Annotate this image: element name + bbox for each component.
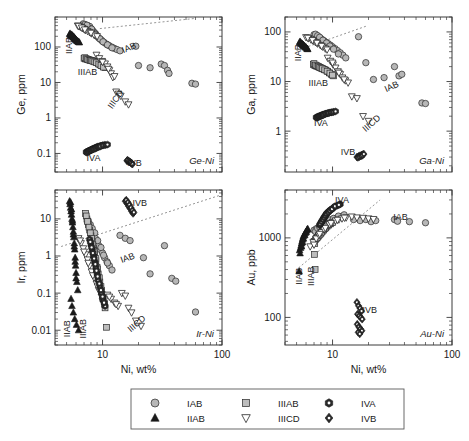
marker-ivb-center-dot xyxy=(361,318,363,320)
y-tick-label-ga-ni: 1 xyxy=(275,126,281,137)
marker-iab xyxy=(104,260,110,266)
marker-iiiab xyxy=(330,72,336,78)
y-tick-label-au-ni: 1000 xyxy=(259,232,282,243)
marker-iab xyxy=(192,309,198,315)
legend-label-iiab: IIAB xyxy=(187,413,205,424)
marker-iva-center-dot xyxy=(106,143,108,145)
marker-iiab xyxy=(70,309,77,315)
marker-ivb-center-dot xyxy=(133,211,135,213)
marker-iiicd xyxy=(128,310,135,316)
group-label-ge-ni-iiiab: IIIAB xyxy=(78,67,98,77)
group-label-ga-ni-iab: IAB xyxy=(383,79,400,94)
group-label-au-ni-iiab: IIAB xyxy=(294,268,304,285)
marker-ivb-center-dot xyxy=(363,153,365,155)
group-label-ga-ni-iiiab: IIIAB xyxy=(309,78,329,88)
panel-ir-ni: 1010.10.01IIABIIIABIABIIICDIVBIr-NiIr, p… xyxy=(15,190,222,345)
group-label-ge-ni-ivb: IVB xyxy=(127,158,142,168)
panel-au-ni: 1000100IIABIIIABIVAIABIVBAu-NiAu, ppb xyxy=(245,190,452,345)
marker-iab xyxy=(173,278,179,284)
y-tick-label-ir-ni: 0.1 xyxy=(37,288,51,299)
y-tick-label-ge-ni: 100 xyxy=(34,41,51,52)
marker-iab xyxy=(343,55,349,61)
y-tick-label-au-ni: 100 xyxy=(264,312,281,323)
marker-iab xyxy=(147,65,153,71)
y-tick-label-ga-ni: 10 xyxy=(270,76,282,87)
group-label-ge-ni-iiab: IIAB xyxy=(64,37,74,54)
y-tick-label-ir-ni: 1 xyxy=(45,250,51,261)
group-label-ir-ni-iiiab: IIIAB xyxy=(78,319,88,339)
series-ga-ni-ivb xyxy=(354,150,367,161)
y-axis-title-ga-ni: Ga, ppm xyxy=(245,74,257,115)
y-tick-label-ir-ni: 10 xyxy=(40,213,52,224)
x-tick-label-au-ni: 10 xyxy=(327,349,339,360)
marker-iab xyxy=(422,100,428,106)
y-axis-title-ge-ni: Ge, ppm xyxy=(15,74,27,115)
data-layer-ir-ni xyxy=(61,195,222,333)
legend-label-iab: IAB xyxy=(187,398,202,409)
group-label-au-ni-iiiab: IIIAB xyxy=(306,266,316,286)
marker-iiab xyxy=(74,287,81,293)
marker-iva-center-dot xyxy=(334,110,336,112)
group-label-ir-ni-ivb: IVB xyxy=(133,198,148,208)
marker-iva-center-dot xyxy=(89,241,91,243)
marker-iva-center-dot xyxy=(103,302,105,304)
group-label-au-ni-ivb: IVB xyxy=(363,305,378,315)
marker-iab xyxy=(109,45,115,51)
marker-iab xyxy=(330,46,336,52)
marker-iiiab xyxy=(312,251,318,257)
marker-iiiab xyxy=(242,399,249,406)
marker-iab xyxy=(363,59,369,65)
group-label-ir-ni-iab: IAB xyxy=(119,251,136,265)
panel-ga-ni: 100101IIABIIIABIABIIICDIVAIVBGa-NiGa, pp… xyxy=(245,17,452,172)
group-label-ga-ni-iva: IVA xyxy=(314,118,328,128)
group-label-ge-ni-iva: IVA xyxy=(87,153,101,163)
y-axis-title-au-ni: Au, ppb xyxy=(245,249,257,285)
trendline-au-ni xyxy=(299,200,380,268)
figure-canvas: 1001010.1IIABIIIABIABIIICDIVAIVBGe-NiGe,… xyxy=(0,0,469,441)
x-axis-title-au-ni: Ni, wt% xyxy=(351,363,387,375)
marker-iiiab xyxy=(87,230,93,236)
x-tick-label-ir-ni: 100 xyxy=(214,349,231,360)
marker-iiicd xyxy=(354,96,361,102)
marker-iiicd xyxy=(125,102,132,108)
group-label-au-ni-iab: IAB xyxy=(393,212,408,222)
marker-iab xyxy=(422,220,428,226)
group-label-au-ni-iva: IVA xyxy=(335,195,349,205)
marker-iab xyxy=(98,244,104,250)
marker-iab xyxy=(140,254,146,260)
x-tick-label-ir-ni: 10 xyxy=(97,349,109,360)
marker-iab xyxy=(109,267,115,273)
y-tick-label-ge-ni: 0.1 xyxy=(37,148,51,159)
legend-label-iiicd: IIICD xyxy=(278,413,300,424)
marker-ivb-center-dot xyxy=(328,417,331,420)
marker-iab xyxy=(151,399,159,407)
panel-ge-ni: 1001010.1IIABIIIABIABIIICDIVAIVBGe-NiGe,… xyxy=(15,17,222,172)
marker-iva-center-dot xyxy=(94,263,96,265)
marker-iiiab xyxy=(85,219,91,225)
marker-iva-center-dot xyxy=(93,257,95,259)
marker-iab xyxy=(166,70,172,76)
marker-iab xyxy=(127,237,133,243)
group-label-ga-ni-ivb: IVB xyxy=(341,147,356,157)
marker-iiiab xyxy=(104,324,110,330)
x-tick-label-au-ni: 100 xyxy=(444,349,461,360)
marker-iiicd xyxy=(122,293,129,299)
marker-iva-center-dot xyxy=(90,246,92,248)
group-label-ge-ni-iab: IAB xyxy=(120,40,137,55)
marker-iva-center-dot xyxy=(92,252,94,254)
marker-ivb-center-dot xyxy=(359,333,361,335)
marker-iva-center-dot xyxy=(96,275,98,277)
legend-label-iiiab: IIIAB xyxy=(278,398,299,409)
meteorite-element-vs-ni-figure: 1001010.1IIABIIIABIABIIICDIVAIVBGe-NiGe,… xyxy=(0,0,469,441)
y-tick-label-ge-ni: 1 xyxy=(45,112,51,123)
marker-iab xyxy=(355,34,361,40)
panel-tag-ge-ni: Ge-Ni xyxy=(189,155,215,166)
y-tick-label-ga-ni: 100 xyxy=(264,26,281,37)
y-tick-label-ge-ni: 10 xyxy=(40,77,52,88)
series-ir-ni-iiicd xyxy=(75,236,144,330)
marker-iab xyxy=(370,76,376,82)
legend-label-ivb: IVB xyxy=(361,413,376,424)
marker-iva-center-dot xyxy=(328,402,331,405)
series-ir-ni-iiab xyxy=(66,198,82,333)
marker-iab xyxy=(161,242,167,248)
